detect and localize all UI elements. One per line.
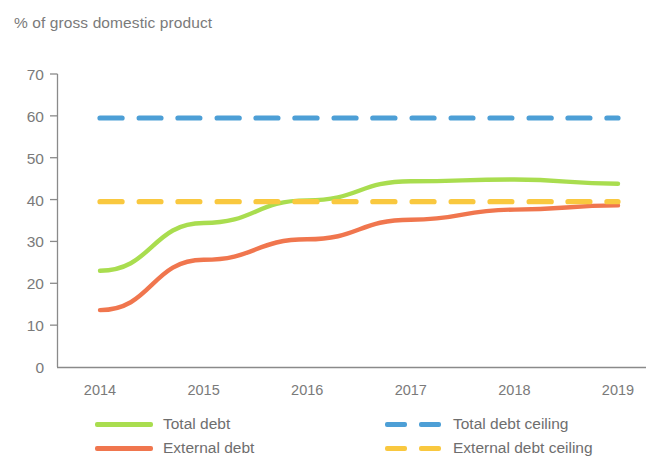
legend-label: External debt ceiling [453,440,593,456]
legend-item[interactable]: External debt [95,436,254,460]
legend-swatch-solid [95,422,153,427]
x-tick-label: 2016 [291,382,323,398]
y-axis-group [50,74,58,367]
legend-swatch-dashed [385,422,443,427]
plot-svg: 010203040506070 201420152016201720182019 [0,0,650,410]
y-tick-label: 0 [35,359,44,376]
legend-label: Total debt ceiling [453,416,568,432]
legend-item[interactable]: Total debt [95,412,254,436]
y-tick-label: 60 [27,108,45,125]
series-line-external-debt [100,205,618,310]
series-group [100,118,618,310]
y-tick-label: 70 [27,66,45,83]
legend-column-right: Total debt ceilingExternal debt ceiling [385,412,593,460]
x-tick-label: 2015 [187,382,219,398]
x-tick-label: 2019 [602,382,634,398]
x-tick-label: 2014 [84,382,116,398]
x-tick-label: 2018 [498,382,530,398]
legend-swatch-solid [95,446,153,451]
y-tick-label: 10 [27,317,45,334]
y-tick-labels: 010203040506070 [27,66,45,376]
legend-column-left: Total debtExternal debt [95,412,254,460]
legend-label: Total debt [163,416,230,432]
plot-area: 010203040506070 201420152016201720182019 [0,0,650,410]
legend-label: External debt [163,440,254,456]
y-tick-label: 20 [27,275,45,292]
legend-swatch-dashed [385,446,443,451]
y-tick-label: 40 [27,192,45,209]
y-tick-label: 30 [27,233,45,250]
legend-item[interactable]: Total debt ceiling [385,412,593,436]
x-tick-label: 2017 [395,382,427,398]
series-line-total-debt [100,180,618,271]
legend-item[interactable]: External debt ceiling [385,436,593,460]
chart-figure: % of gross domestic product 010203040506… [0,0,650,460]
x-tick-labels: 201420152016201720182019 [84,382,634,398]
y-tick-label: 50 [27,150,45,167]
chart-legend: Total debtExternal debt Total debt ceili… [0,412,650,460]
